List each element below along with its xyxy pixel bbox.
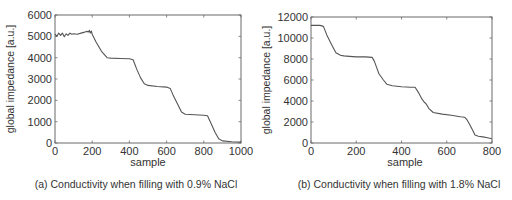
chart-a-axes-frame bbox=[55, 15, 241, 143]
chart-a-ytick-label: 0 bbox=[46, 137, 52, 149]
chart-a-ytick-label: 5000 bbox=[28, 30, 52, 42]
chart-a-ytick-label: 3000 bbox=[28, 73, 52, 85]
chart-b-axes-frame bbox=[311, 17, 492, 143]
chart-a-ytick-label: 2000 bbox=[28, 94, 52, 106]
chart-b-plot: 0200400600800020004000600080001000012000… bbox=[256, 0, 512, 200]
chart-panel-b: 0200400600800020004000600080001000012000… bbox=[256, 0, 512, 200]
chart-b-ytick-label: 6000 bbox=[284, 74, 308, 86]
chart-a-ylabel: global impedance [a.u.] bbox=[4, 25, 16, 134]
chart-a-xlabel: sample bbox=[20, 156, 276, 168]
chart-b-ytick-label: 8000 bbox=[284, 53, 308, 65]
chart-b-ytick-label: 12000 bbox=[277, 11, 308, 23]
chart-a-ytick-label: 4000 bbox=[28, 52, 52, 64]
chart-b-ytick-label: 4000 bbox=[284, 95, 308, 107]
chart-panel-a: 0200400600800100001000200030004000500060… bbox=[0, 0, 256, 200]
chart-b-ylabel: global impedance [a.u.] bbox=[260, 26, 272, 135]
chart-a-ytick-label: 1000 bbox=[28, 116, 52, 128]
chart-b-xlabel: sample bbox=[277, 156, 512, 168]
chart-a-plot: 0200400600800100001000200030004000500060… bbox=[0, 0, 256, 200]
chart-b-caption: (b) Conductivity when filling with 1.8% … bbox=[271, 178, 512, 190]
chart-a-ytick-label: 6000 bbox=[28, 9, 52, 21]
chart-b-ytick-label: 10000 bbox=[277, 32, 308, 44]
chart-b-ytick-label: 2000 bbox=[284, 116, 308, 128]
chart-a-caption: (a) Conductivity when filling with 0.9% … bbox=[8, 178, 264, 190]
chart-b-ytick-label: 0 bbox=[302, 137, 308, 149]
